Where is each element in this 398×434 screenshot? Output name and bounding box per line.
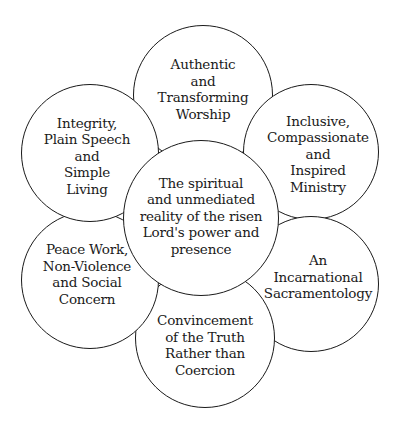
flower-diagram: Authentic and Transforming Worship Inclu… <box>0 0 398 434</box>
petal-lower-right-label: An Incarnational Sacramentology <box>264 252 372 302</box>
petal-upper-left-label: Integrity, Plain Speech and Simple Livin… <box>44 115 130 198</box>
center-circle-label: The spiritual and unmediated reality of … <box>140 175 263 258</box>
petal-lower-left-label: Peace Work, Non-Violence and Social Conc… <box>43 241 131 307</box>
petal-bottom-label: Convincement of the Truth Rather than Co… <box>157 312 253 378</box>
petal-top-label: Authentic and Transforming Worship <box>158 56 249 122</box>
petal-upper-right-label: Inclusive, Compassionate and Inspired Mi… <box>267 113 369 196</box>
center-circle: The spiritual and unmediated reality of … <box>123 140 279 296</box>
